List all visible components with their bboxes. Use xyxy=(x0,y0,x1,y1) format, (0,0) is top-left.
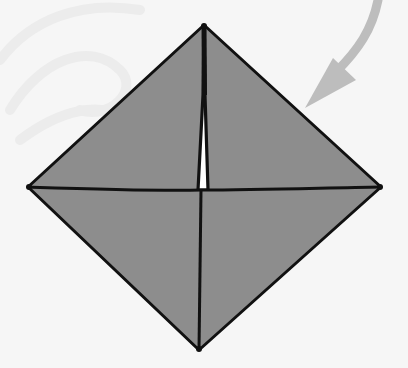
origami-diagram xyxy=(0,0,408,368)
fold-arrow-icon xyxy=(305,0,378,108)
diagram-canvas xyxy=(0,0,408,368)
vertical-crease-lower xyxy=(199,190,201,350)
